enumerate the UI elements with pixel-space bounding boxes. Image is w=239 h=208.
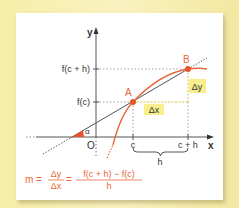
point-b-label: B	[183, 54, 190, 65]
x-axis-arrow-icon	[207, 135, 214, 140]
point-a-label: A	[125, 87, 132, 98]
ch-label: c + h	[178, 140, 198, 150]
formula-lhs: m =	[25, 174, 42, 185]
origin-label: O	[87, 140, 95, 151]
formula-frac2-num: f(c + h) − f(c)	[83, 169, 135, 179]
secant-extension-left	[43, 137, 72, 154]
secant-diagram: y x O α f(c + h) f(c) c c + h h A B Δx Δ…	[0, 0, 239, 208]
delta-y-label: Δy	[192, 82, 203, 92]
h-label: h	[157, 157, 162, 167]
formula-eq: =	[66, 174, 72, 185]
fc-label: f(c)	[77, 97, 90, 107]
formula-frac1-den: Δx	[51, 181, 62, 191]
fch-label: f(c + h)	[62, 64, 90, 74]
delta-x-label: Δx	[149, 105, 160, 115]
point-a	[130, 99, 136, 105]
y-axis-arrow-icon	[94, 27, 99, 34]
secant-extension-right	[188, 58, 207, 69]
x-axis-label: x	[208, 140, 214, 151]
slope-formula: m = Δy Δx = f(c + h) − f(c) h	[25, 169, 142, 191]
formula-frac2-den: h	[106, 181, 111, 191]
c-label: c	[131, 140, 136, 150]
function-curve-extension	[107, 145, 113, 158]
y-axis-label: y	[87, 27, 93, 38]
formula-frac1-num: Δy	[51, 169, 62, 179]
point-b	[185, 66, 191, 72]
angle-alpha-icon	[72, 130, 84, 137]
diagram-frame: y x O α f(c + h) f(c) c c + h h A B Δx Δ…	[0, 0, 239, 208]
alpha-label: α	[85, 127, 90, 136]
